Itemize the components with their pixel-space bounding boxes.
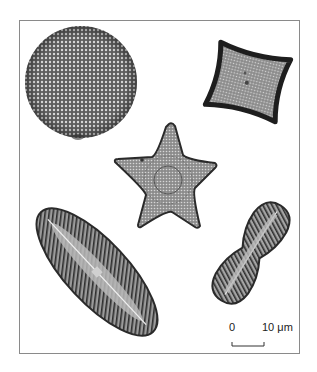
scale-bar xyxy=(232,342,264,346)
scale-bar-end-label: 10 μm xyxy=(262,321,293,333)
scale-bar-start-label: 0 xyxy=(229,321,235,333)
square-centric-diatom xyxy=(205,42,290,122)
constricted-pennate-diatom xyxy=(205,195,297,310)
star-shaped-diatom xyxy=(115,123,217,227)
diatom-plate xyxy=(0,0,317,372)
circular-centric-diatom xyxy=(25,26,137,140)
